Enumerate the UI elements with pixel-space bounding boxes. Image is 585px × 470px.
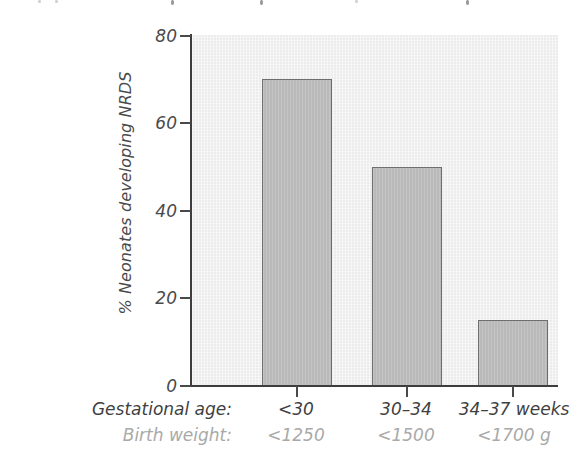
y-tick-40 <box>180 210 191 212</box>
bar-gestation-34-37[interactable] <box>478 320 548 386</box>
row-label-gestational-age: Gestational age: <box>14 399 232 419</box>
y-tick-label-80: 80 <box>131 26 177 46</box>
plot-area <box>192 35 558 386</box>
chart-figure: % Neonates developing NRDS 0 20 40 60 80… <box>0 0 585 470</box>
x-label-gestation-34-37: 34–37 weeks <box>452 399 576 419</box>
row-label-birth-weight: Birth weight: <box>14 425 232 445</box>
x-label-birthweight-1700: <1700 g <box>452 425 576 445</box>
y-tick-80 <box>180 35 191 37</box>
x-tick-30-34 <box>406 386 408 397</box>
x-label-birthweight-1250: <1250 <box>246 425 346 445</box>
y-tick-label-60: 60 <box>131 113 177 133</box>
y-axis-title: % Neonates developing NRDS <box>113 23 139 363</box>
x-tick-under-30 <box>296 386 298 397</box>
x-label-birthweight-1500: <1500 <box>356 425 456 445</box>
y-tick-label-20: 20 <box>131 288 177 308</box>
bar-gestation-under-30[interactable] <box>262 79 332 386</box>
bar-series <box>192 35 558 386</box>
cropped-title-remnants <box>0 0 585 8</box>
bar-gestation-30-34[interactable] <box>372 167 442 386</box>
x-tick-34-37 <box>512 386 514 397</box>
y-tick-0 <box>180 385 191 387</box>
y-tick-60 <box>180 122 191 124</box>
x-axis-line <box>190 385 558 387</box>
y-tick-label-40: 40 <box>131 201 177 221</box>
x-label-gestation-under-30: <30 <box>246 399 346 419</box>
x-label-gestation-30-34: 30–34 <box>356 399 456 419</box>
y-tick-label-0: 0 <box>131 376 177 396</box>
y-tick-20 <box>180 297 191 299</box>
